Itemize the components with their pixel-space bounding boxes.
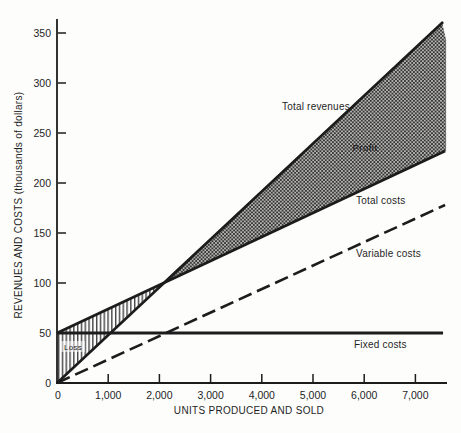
- y-tick-label: 50: [39, 327, 51, 339]
- total-revenues-label: Total revenues: [282, 101, 350, 112]
- x-tick-label: 1,000: [95, 389, 121, 401]
- x-tick-label: 2,000: [146, 389, 172, 401]
- profit-region-label: Profit: [352, 142, 377, 153]
- x-axis-title: UNITS PRODUCED AND SOLD: [174, 405, 324, 416]
- y-axis-title: REVENUES AND COSTS (thousands of dollars…: [13, 92, 24, 319]
- total-costs-label: Total costs: [356, 195, 405, 206]
- loss-region-label: Loss: [64, 343, 82, 352]
- variable-costs-label: Variable costs: [356, 248, 421, 259]
- x-tick-label: 3,000: [197, 389, 223, 401]
- break-even-chart-figure: 01,0002,0003,0004,0005,0006,0007,0000501…: [0, 0, 461, 433]
- y-tick-label: 350: [33, 27, 51, 39]
- y-tick-label: 0: [45, 377, 51, 389]
- x-tick-label: 6,000: [351, 389, 377, 401]
- x-tick-label: 7,000: [402, 389, 428, 401]
- y-tick-label: 150: [33, 227, 51, 239]
- series-total_costs: [57, 151, 445, 333]
- fixed-costs-label: Fixed costs: [354, 339, 407, 350]
- x-tick-label: 0: [55, 389, 61, 401]
- x-tick-label: 4,000: [249, 389, 275, 401]
- x-tick-label: 5,000: [300, 389, 326, 401]
- y-tick-label: 200: [33, 177, 51, 189]
- chart-canvas: 01,0002,0003,0004,0005,0006,0007,0000501…: [0, 0, 461, 433]
- y-tick-label: 300: [33, 77, 51, 89]
- y-tick-label: 100: [33, 277, 51, 289]
- y-tick-label: 250: [33, 127, 51, 139]
